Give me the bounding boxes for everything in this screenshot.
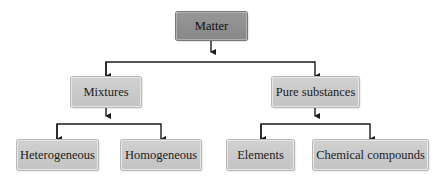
node-label: Elements (237, 148, 284, 163)
matter-classification-diagram: Matter Mixtures Pure substances Heteroge… (0, 0, 442, 178)
node-label: Matter (195, 19, 228, 34)
node-label: Heterogeneous (20, 148, 95, 163)
node-label: Chemical compounds (316, 148, 425, 163)
node-matter: Matter (176, 12, 247, 40)
node-heterogeneous: Heterogeneous (17, 140, 98, 170)
node-label: Pure substances (276, 85, 356, 100)
node-label: Mixtures (83, 85, 128, 100)
node-label: Homogeneous (125, 148, 197, 163)
node-mixtures: Mixtures (71, 77, 141, 107)
node-chemical-compounds: Chemical compounds (313, 140, 428, 170)
node-homogeneous: Homogeneous (121, 140, 201, 170)
node-pure-substances: Pure substances (272, 77, 359, 107)
node-elements: Elements (227, 140, 294, 170)
